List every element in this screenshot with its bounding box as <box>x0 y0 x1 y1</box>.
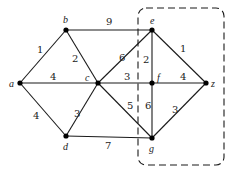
edge-weight-a-c: 4 <box>50 71 56 82</box>
edges-group <box>20 30 206 138</box>
edge-c-d <box>66 83 98 136</box>
node-label-g: g <box>149 143 154 154</box>
node-z <box>203 80 208 85</box>
edge-b-c <box>66 30 98 83</box>
node-labels-group: abcdefzg <box>9 14 215 154</box>
node-b <box>63 27 68 32</box>
edge-d-g <box>66 136 152 138</box>
node-d <box>63 133 68 138</box>
edge-weight-e-f: 2 <box>143 54 149 65</box>
edge-c-g <box>98 83 152 138</box>
node-label-e: e <box>150 15 155 26</box>
node-label-c: c <box>85 72 90 83</box>
node-label-b: b <box>63 14 68 25</box>
node-label-z: z <box>210 78 215 89</box>
weighted-graph-diagram: 144296335721463 abcdefzg <box>0 0 230 178</box>
edge-weight-c-f: 3 <box>124 71 130 82</box>
edge-weight-g-z: 3 <box>172 104 178 115</box>
edge-weight-a-b: 1 <box>37 44 43 55</box>
edge-weight-c-g: 5 <box>127 100 133 111</box>
edge-weight-d-g: 7 <box>105 140 111 151</box>
edge-e-z <box>152 30 206 83</box>
edge-weight-f-z: 4 <box>180 71 186 82</box>
node-g <box>149 135 154 140</box>
edge-weight-e-z: 1 <box>180 43 186 54</box>
node-c <box>95 80 100 85</box>
node-f <box>149 80 154 85</box>
node-e <box>149 27 154 32</box>
edge-g-z <box>152 83 206 138</box>
node-label-d: d <box>63 141 69 152</box>
edge-weight-c-d: 3 <box>74 108 80 119</box>
node-label-f: f <box>157 72 161 83</box>
node-label-a: a <box>9 78 14 89</box>
edge-weight-b-e: 9 <box>106 16 112 27</box>
edge-a-b <box>20 30 66 83</box>
edge-a-d <box>20 83 66 136</box>
edge-weight-f-g: 6 <box>145 100 151 111</box>
edge-weight-c-e: 6 <box>119 52 125 63</box>
node-a <box>17 80 22 85</box>
edge-weight-a-d: 4 <box>33 110 39 121</box>
edge-weight-b-c: 2 <box>72 53 78 64</box>
